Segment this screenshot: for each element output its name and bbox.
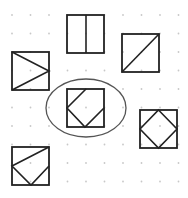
grid-dot <box>178 51 180 53</box>
grid-dot <box>48 125 50 127</box>
figure-f-zigzag-lines <box>12 147 49 185</box>
grid-dot <box>11 125 13 127</box>
figure-f-square-with-zigzag <box>12 147 49 185</box>
grid-dot <box>104 144 106 146</box>
grid-dot <box>30 107 32 109</box>
grid-dot <box>178 107 180 109</box>
grid-dot <box>30 162 32 164</box>
grid-dot <box>122 14 124 16</box>
grid-dot <box>141 162 143 164</box>
grid-dot <box>67 144 69 146</box>
grid-dot <box>104 70 106 72</box>
grid-dot <box>122 181 124 183</box>
grid-dot <box>48 107 50 109</box>
grid-dot <box>122 144 124 146</box>
grid-dot <box>122 88 124 90</box>
grid-dot <box>11 33 13 35</box>
grid-dot <box>48 144 50 146</box>
grid-dot <box>104 181 106 183</box>
grid-dot <box>11 14 13 16</box>
figure-e-square-with-diamond <box>140 110 177 148</box>
grid-dot <box>178 14 180 16</box>
grid-dot <box>85 162 87 164</box>
grid-dot <box>11 144 13 146</box>
grid-dot <box>122 107 124 109</box>
grid-dot <box>30 14 32 16</box>
grid-dot <box>30 181 32 183</box>
figure-e-square <box>140 110 177 148</box>
grid-dot <box>85 181 87 183</box>
grid-dot <box>159 107 161 109</box>
grid-dot <box>67 70 69 72</box>
grid-dot <box>30 125 32 127</box>
figure-c-square-with-diagonal <box>122 34 159 72</box>
grid-dot <box>85 70 87 72</box>
grid-dot <box>178 88 180 90</box>
grid-dot <box>48 33 50 35</box>
grid-dot <box>159 88 161 90</box>
grid-dot <box>48 14 50 16</box>
grid-dot <box>178 162 180 164</box>
grid-dot <box>141 14 143 16</box>
grid-dot <box>159 14 161 16</box>
grid-dot <box>104 162 106 164</box>
grid-dot <box>30 70 32 72</box>
grid-dot <box>67 181 69 183</box>
grid-dot <box>178 70 180 72</box>
grid-dot <box>30 33 32 35</box>
grid-dot <box>178 181 180 183</box>
grid-dot <box>159 125 161 127</box>
grid-dot <box>122 162 124 164</box>
grid-dot <box>141 88 143 90</box>
grid-dot <box>178 33 180 35</box>
grid-dot <box>85 144 87 146</box>
figure-f-square <box>12 147 49 185</box>
grid-dot <box>122 125 124 127</box>
grid-dot <box>11 107 13 109</box>
grid-dot <box>141 181 143 183</box>
grid-dot <box>85 107 87 109</box>
grid-dot <box>159 162 161 164</box>
grid-dot <box>30 144 32 146</box>
grid-dot <box>141 107 143 109</box>
grid-dot <box>67 162 69 164</box>
figure-e-diamond <box>140 110 177 148</box>
figure-puzzle-diagram <box>0 0 188 198</box>
grid-dot <box>159 181 161 183</box>
figure-c-diagonal-line <box>122 34 159 72</box>
figure-b-square-with-divider <box>67 15 104 53</box>
